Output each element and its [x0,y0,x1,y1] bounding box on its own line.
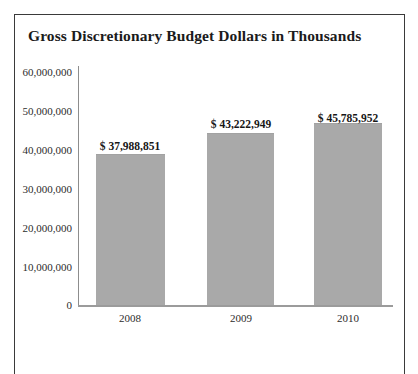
bar-value-label-2009: $ 43,222,949 [211,118,271,130]
bar-value-label-2008: $ 37,988,851 [100,140,160,152]
bar-2010 [314,123,382,305]
y-axis-tick-label: 60,000,000 [10,66,72,78]
y-axis-tick-labels: 60,000,000 50,000,000 40,000,000 30,000,… [8,0,72,346]
bar-value-label-2010: $ 45,785,952 [318,112,378,124]
bar-2009 [207,133,274,305]
x-axis-tick-label-2008: 2008 [119,312,141,324]
bar-2008 [96,154,165,305]
x-axis-tick-label-2009: 2009 [230,312,252,324]
chart-title: Gross Discretionary Budget Dollars in Th… [28,27,378,45]
y-axis-tick-label: 30,000,000 [10,183,72,195]
x-axis-tick-label-2010: 2010 [337,312,359,324]
y-axis-tick-label: 10,000,000 [10,261,72,273]
y-axis-tick-label: 20,000,000 [10,222,72,234]
y-axis-tick-label: 0 [10,299,72,311]
y-axis-tick-label: 50,000,000 [10,105,72,117]
y-axis-tick-label: 40,000,000 [10,144,72,156]
bar-series [79,66,393,305]
x-axis-line [78,305,393,307]
